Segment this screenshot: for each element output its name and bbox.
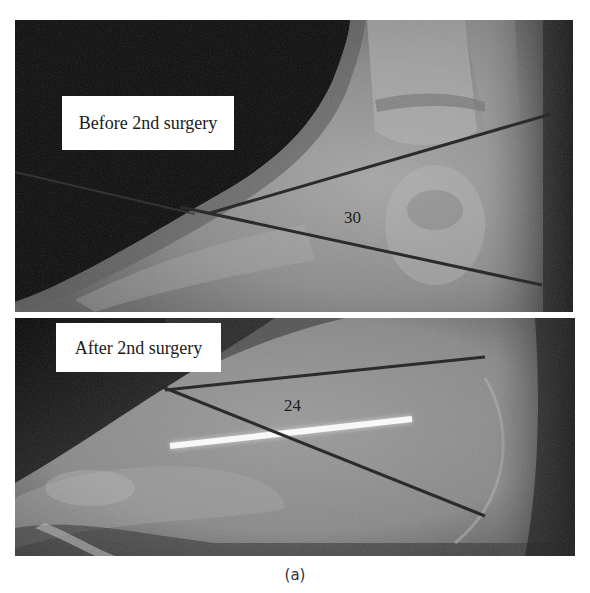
- xray-panel-after: After 2nd surgery 24: [15, 318, 575, 556]
- xray-figure: Before 2nd surgery 30: [0, 0, 590, 593]
- xray-image-before: [15, 20, 573, 312]
- angle-value-before: 30: [344, 209, 361, 226]
- label-before-surgery: Before 2nd surgery: [62, 96, 234, 150]
- figure-caption: (a): [0, 566, 590, 584]
- label-after-surgery: After 2nd surgery: [56, 323, 221, 372]
- xray-panel-before: Before 2nd surgery 30: [15, 20, 573, 312]
- angle-value-after: 24: [284, 397, 301, 414]
